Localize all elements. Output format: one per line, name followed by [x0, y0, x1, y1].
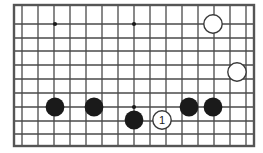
board-background	[0, 0, 263, 153]
go-board[interactable]: 1	[0, 0, 263, 153]
stone-black-stone-1[interactable]	[46, 98, 65, 117]
move-number-label: 1	[159, 114, 165, 126]
white-stone-icon	[228, 63, 246, 81]
black-stone-icon	[125, 111, 144, 130]
stone-white-stone-1[interactable]	[204, 15, 222, 33]
stone-black-stone-3[interactable]	[125, 111, 144, 130]
star-point-center-icon	[132, 22, 136, 26]
black-stone-icon	[180, 98, 199, 117]
go-board-diagram: 1	[0, 0, 263, 153]
black-stone-icon	[85, 98, 104, 117]
star-point-lower-center-icon	[132, 105, 136, 109]
stone-black-stone-2[interactable]	[85, 98, 104, 117]
stone-black-stone-4[interactable]	[180, 98, 199, 117]
black-stone-icon	[46, 98, 65, 117]
star-point-left-icon	[53, 22, 57, 26]
stone-black-stone-5[interactable]	[204, 98, 223, 117]
stone-white-stone-2[interactable]	[228, 63, 246, 81]
white-stone-icon	[204, 15, 222, 33]
black-stone-icon	[204, 98, 223, 117]
stone-white-stone-move-1[interactable]: 1	[153, 111, 171, 129]
